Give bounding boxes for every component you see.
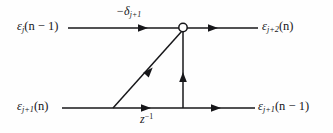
label-output-top-sub: j+2: [267, 25, 279, 34]
label-input-bottom-sub: j+1: [22, 105, 34, 114]
label-delay-sup: −1: [145, 112, 153, 121]
summing-junction-node: [179, 23, 187, 31]
label-input-bottom-arg: (n): [34, 99, 49, 113]
figure-canvas: εj(n − 1) −δj+1 εj+2(n) εj+1(n) z−1 εj+1…: [0, 0, 333, 133]
label-output-top-arg: (n): [279, 19, 294, 33]
label-coefficient-base: −δ: [116, 4, 130, 18]
label-output-bottom-sub: j+1: [263, 105, 275, 114]
top-branch-arrow-right: [208, 24, 218, 32]
label-output-top: εj+2(n): [262, 20, 294, 33]
label-input-top: εj(n − 1): [17, 20, 58, 33]
label-delay-operator: z−1: [140, 113, 153, 125]
label-coefficient: −δj+1: [116, 5, 141, 17]
bottom-branch-arrow-left: [141, 104, 151, 112]
label-coefficient-sub: j+1: [130, 10, 142, 19]
cross-coupling-branch-line: [113, 31, 182, 108]
label-input-top-arg: (n − 1): [24, 19, 58, 33]
label-output-bottom: εj+1(n − 1): [258, 100, 309, 113]
feedback-branch-arrow: [179, 72, 187, 82]
bottom-branch-arrow-right: [211, 104, 221, 112]
top-branch-arrow-left: [138, 24, 148, 32]
label-output-bottom-arg: (n − 1): [275, 99, 309, 113]
label-input-bottom: εj+1(n): [17, 100, 49, 113]
